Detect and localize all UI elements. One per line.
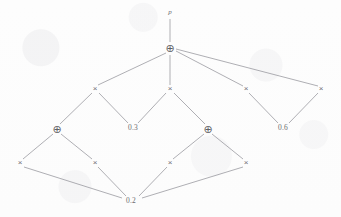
edge-mul_r2_c4-to-const_06	[289, 93, 318, 123]
edge-layer	[0, 0, 341, 217]
edge-mul_r2_c1-to-add_left	[60, 93, 92, 124]
times-icon-mul_r2_c4: ×	[319, 85, 324, 93]
plus-circle-icon-add_right: ⊕	[203, 124, 212, 135]
plus-circle-icon-add_left: ⊕	[52, 124, 61, 135]
edge-add_top-to-mul_r2_c3	[176, 51, 243, 86]
edge-add_top-to-mul_r2_c4	[176, 49, 318, 86]
circuit-diagram-canvas: p⊕××××⊕0.3⊕0.6××××0.2	[0, 0, 341, 217]
edge-add_left-to-mul_r4_c1	[23, 134, 53, 159]
edge-mul_r4_c4-to-const_02	[142, 167, 243, 198]
edge-mul_r2_c1-to-const_03	[99, 93, 128, 123]
times-icon-mul_r4_c3: ×	[168, 159, 173, 167]
constant-label-const_06: 0.6	[278, 124, 288, 132]
times-icon-mul_r4_c2: ×	[93, 159, 98, 167]
times-icon-mul_r2_c3: ×	[244, 85, 249, 93]
plus-circle-icon-add_top: ⊕	[165, 43, 174, 54]
times-icon-mul_r4_c4: ×	[244, 159, 249, 167]
edge-mul_r2_c2-to-add_right	[174, 93, 205, 124]
times-icon-mul_r2_c2: ×	[168, 85, 173, 93]
edge-mul_r2_c3-to-const_06	[249, 93, 278, 123]
edge-add_top-to-mul_r2_c1	[98, 53, 166, 85]
edge-add_left-to-mul_r4_c2	[61, 134, 92, 159]
times-icon-mul_r4_c1: ×	[18, 159, 23, 167]
edge-mul_r4_c1-to-const_02	[24, 167, 122, 198]
edge-add_right-to-mul_r4_c4	[212, 134, 243, 159]
variable-label-root_label: p	[168, 9, 172, 16]
edge-mul_r2_c2-to-const_03	[138, 93, 166, 123]
edge-add_right-to-mul_r4_c3	[173, 134, 204, 159]
constant-label-const_03: 0.3	[128, 124, 138, 132]
times-icon-mul_r2_c1: ×	[93, 85, 98, 93]
constant-label-const_02: 0.2	[126, 197, 136, 205]
